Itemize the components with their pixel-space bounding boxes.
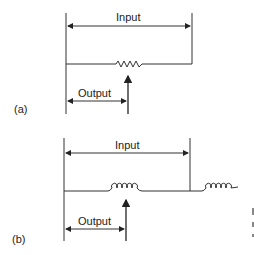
cropped-text-fragment	[252, 222, 254, 227]
input-label-b: Input	[115, 140, 139, 151]
cropped-text-fragment	[252, 208, 254, 215]
part-a-tag: (a)	[14, 104, 27, 115]
resistor-a	[66, 61, 192, 67]
output-label-a: Output	[78, 88, 111, 99]
coil-b	[64, 183, 206, 191]
cropped-text-fragment	[252, 234, 254, 237]
part-b-tag: (b)	[12, 234, 25, 245]
input-label-a: Input	[116, 12, 140, 23]
coil-b-continuation	[206, 183, 239, 188]
potentiometer-diagram	[0, 0, 254, 255]
output-label-b: Output	[78, 216, 111, 227]
